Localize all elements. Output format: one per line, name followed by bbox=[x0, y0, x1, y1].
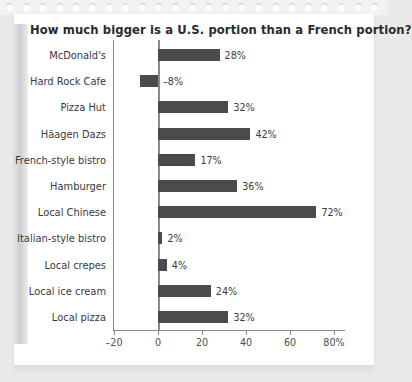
chart-bar-row: Local ice cream24% bbox=[113, 278, 359, 304]
binding-hole bbox=[255, 3, 262, 10]
binding-hole bbox=[205, 3, 212, 10]
bar-value-label: 2% bbox=[167, 233, 182, 244]
binding-hole bbox=[72, 3, 79, 10]
chart-bar bbox=[158, 311, 228, 323]
category-label: Italian-style bistro bbox=[17, 233, 106, 244]
x-axis-tick-label: 0 bbox=[155, 337, 161, 348]
chart-bar-row: Pizza Hut32% bbox=[113, 94, 359, 120]
x-axis-tick-mark bbox=[290, 330, 291, 335]
binding-hole bbox=[238, 3, 245, 10]
binding-hole bbox=[272, 3, 279, 10]
x-axis-tick-mark bbox=[246, 330, 247, 335]
binding-hole bbox=[89, 3, 96, 10]
bar-value-label: 72% bbox=[321, 207, 342, 218]
chart-bar-row: Local crepes4% bbox=[113, 252, 359, 278]
category-label: Hard Rock Cafe bbox=[30, 76, 106, 87]
bar-value-label: –8% bbox=[163, 76, 183, 87]
binding-hole bbox=[172, 3, 179, 10]
bar-value-label: 32% bbox=[233, 102, 254, 113]
binding-hole bbox=[39, 3, 46, 10]
binding-hole bbox=[288, 3, 295, 10]
bar-value-label: 36% bbox=[242, 181, 263, 192]
binding-hole bbox=[305, 3, 312, 10]
chart-bar-row: Local pizza32% bbox=[113, 304, 359, 330]
chart-bar-row: McDonald's28% bbox=[113, 42, 359, 68]
notebook-binding-strip bbox=[0, 0, 388, 15]
chart-bar-row: Hard Rock Cafe–8% bbox=[113, 68, 359, 94]
binding-hole bbox=[355, 3, 362, 10]
category-label: Local Chinese bbox=[38, 207, 106, 218]
x-axis-tick-label: –20 bbox=[105, 337, 122, 348]
chart-bar-row: Häagen Dazs42% bbox=[113, 121, 359, 147]
category-label: Local pizza bbox=[52, 312, 106, 323]
chart-bar bbox=[158, 232, 162, 244]
chart-bar-row: Hamburger36% bbox=[113, 173, 359, 199]
chart-bar bbox=[158, 206, 316, 218]
bar-value-label: 42% bbox=[255, 128, 276, 139]
chart-bar-row: French-style bistro17% bbox=[113, 147, 359, 173]
category-label: French-style bistro bbox=[15, 154, 106, 165]
binding-hole bbox=[122, 3, 129, 10]
chart-title: How much bigger is a U.S. portion than a… bbox=[30, 23, 412, 37]
bar-value-label: 4% bbox=[172, 259, 187, 270]
x-axis-tick-label: 20 bbox=[196, 337, 208, 348]
chart-x-axis-line bbox=[113, 330, 345, 331]
binding-hole bbox=[106, 3, 113, 10]
x-axis-tick-label: 60 bbox=[284, 337, 296, 348]
binding-hole bbox=[338, 3, 345, 10]
category-label: Local crepes bbox=[44, 259, 106, 270]
bar-value-label: 28% bbox=[225, 50, 246, 61]
x-axis-tick-label: 40 bbox=[240, 337, 252, 348]
chart-bar bbox=[158, 49, 220, 61]
chart-plot-area: –20020406080%McDonald's28%Hard Rock Cafe… bbox=[113, 40, 359, 340]
binding-hole bbox=[321, 3, 328, 10]
category-label: Local ice cream bbox=[29, 285, 106, 296]
chart-bar bbox=[158, 285, 211, 297]
x-axis-tick-mark bbox=[158, 330, 159, 335]
binding-hole bbox=[6, 3, 13, 10]
binding-hole bbox=[56, 3, 63, 10]
bar-value-label: 24% bbox=[216, 285, 237, 296]
binding-hole bbox=[222, 3, 229, 10]
binding-hole bbox=[155, 3, 162, 10]
bar-value-label: 17% bbox=[200, 154, 221, 165]
chart-bar bbox=[158, 101, 228, 113]
chart-bar bbox=[158, 154, 195, 166]
bar-value-label: 32% bbox=[233, 312, 254, 323]
category-label: Pizza Hut bbox=[60, 102, 106, 113]
x-axis-tick-mark bbox=[114, 330, 115, 335]
chart-bar-row: Local Chinese72% bbox=[113, 199, 359, 225]
binding-hole bbox=[371, 3, 378, 10]
category-label: Häagen Dazs bbox=[41, 128, 106, 139]
x-axis-tick-label: 80% bbox=[323, 337, 344, 348]
chart-bar bbox=[158, 259, 167, 271]
category-label: Hamburger bbox=[50, 181, 106, 192]
chart-bar bbox=[158, 180, 237, 192]
notebook-page: How much bigger is a U.S. portion than a… bbox=[14, 14, 374, 365]
chart-bar bbox=[158, 128, 250, 140]
binding-hole bbox=[23, 3, 30, 10]
page-left-gutter bbox=[14, 24, 28, 344]
binding-hole bbox=[189, 3, 196, 10]
chart-bar-row: Italian-style bistro2% bbox=[113, 225, 359, 251]
chart-bar bbox=[140, 75, 158, 87]
x-axis-tick-mark bbox=[202, 330, 203, 335]
binding-hole bbox=[139, 3, 146, 10]
x-axis-tick-mark bbox=[334, 330, 335, 335]
page-bottom-shadow bbox=[14, 365, 374, 375]
category-label: McDonald's bbox=[49, 50, 106, 61]
